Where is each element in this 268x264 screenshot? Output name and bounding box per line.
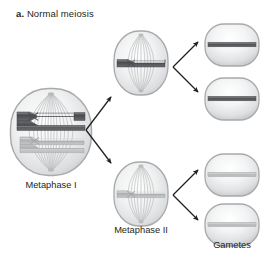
chromosome-light-1 [208,173,256,177]
chromosome-dark-1 [208,42,256,46]
arrow-miitop-to-gamete-2 [173,67,198,92]
arrow-group-meiosis-ii-bottom [172,164,202,228]
gamete-cell-1 [203,22,261,68]
meiosis-figure: a. Normal meiosis [0,0,268,264]
spindle-pole [138,221,143,224]
chromosome-group [117,60,165,67]
metaphase-i-cell [8,86,94,178]
arrow-miibot-to-gamete-4 [173,195,198,220]
chromosome-group [117,191,165,198]
arrow-miibot-to-gamete-3 [173,170,198,195]
panel-title: Normal meiosis [27,8,94,19]
chromosome-dark-1 [117,60,165,67]
spindle-pole [138,165,143,168]
gamete-cell-2 [203,76,261,122]
gamete-cell-3 [203,152,261,198]
panel-letter: a. [16,8,24,19]
spindle-pole [138,34,143,37]
chromosome-light-1 [117,191,165,198]
metaphase-i-label: Metaphase I [8,180,94,190]
metaphase-ii-bottom-cell [112,160,170,228]
arrow-group-meiosis-ii-top [172,34,202,98]
spindle-pole [138,90,143,93]
chromosome-dark-1 [208,96,256,100]
gametes-label: Gametes [198,240,266,250]
metaphase-ii-label: Metaphase II [105,225,177,235]
panel-caption: a. Normal meiosis [16,8,94,19]
arrow-miitop-to-gamete-1 [173,42,198,67]
metaphase-ii-top-cell [112,29,170,97]
chromosome-light-1 [208,223,256,227]
